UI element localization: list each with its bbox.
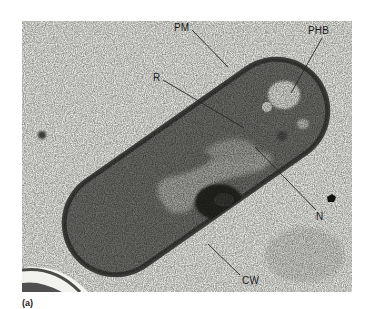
label-n: N [316, 212, 323, 222]
figure: PM PHB R N CW (a) [0, 0, 370, 309]
label-cw: CW [242, 276, 259, 286]
label-pm: PM [174, 23, 189, 33]
label-phb: PHB [308, 26, 329, 36]
figure-caption: (a) [22, 298, 33, 308]
micrograph-image [0, 0, 370, 309]
label-r: R [153, 73, 160, 83]
